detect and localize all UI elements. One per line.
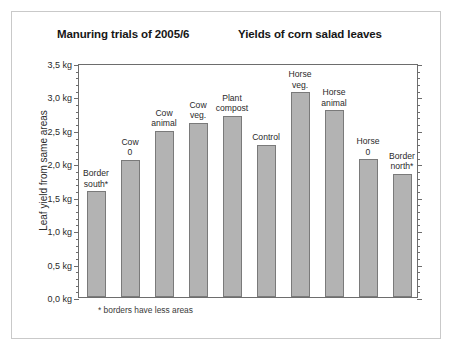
y-axis-minor-tick [76,239,79,240]
y-axis-minor-tick [417,152,420,153]
y-axis-minor-tick [417,85,420,86]
y-axis-major-tick [74,132,79,133]
y-axis-minor-tick [417,292,420,293]
y-axis-minor-tick [76,92,79,93]
chart-title-left: Manuring trials of 2005/6 [57,28,189,40]
y-axis-major-tick [74,98,79,99]
y-axis-tick-label: 2,5 kg [47,127,72,137]
bar [121,160,140,297]
y-axis-minor-tick [417,279,420,280]
plot-area: Border south*Cow 0Cow animalCow veg.Plan… [78,64,418,298]
bar-label: Control [238,132,294,143]
y-axis-major-tick [74,266,79,267]
y-axis-minor-tick [76,225,79,226]
y-axis-major-tick [74,199,79,200]
y-axis-major-tick [417,165,422,166]
y-axis-major-tick [417,232,422,233]
y-axis-tick-label: 2,0 kg [47,160,72,170]
y-axis-major-tick [417,266,422,267]
y-axis-minor-tick [76,286,79,287]
bar [189,123,208,297]
bar-label: Plant compost [204,93,260,114]
y-axis-minor-tick [76,212,79,213]
y-axis-minor-tick [76,112,79,113]
y-axis-minor-tick [76,159,79,160]
y-axis-major-tick [417,98,422,99]
y-axis-minor-tick [417,72,420,73]
chart-page: Manuring trials of 2005/6 Yields of corn… [0,0,452,350]
y-axis-major-tick [417,132,422,133]
y-axis-minor-tick [417,219,420,220]
y-axis-major-tick [74,299,79,300]
y-axis-minor-tick [417,225,420,226]
y-axis-tick-label: 0,0 kg [47,294,72,304]
bar-label: Cow 0 [102,137,158,158]
y-axis-tick-label: 1,0 kg [47,227,72,237]
y-axis-major-tick [417,65,422,66]
y-axis-minor-tick [76,85,79,86]
y-axis-minor-tick [417,139,420,140]
chart-title-right: Yields of corn salad leaves [238,28,382,40]
y-axis-minor-tick [417,112,420,113]
y-axis-tick-label: 3,5 kg [47,60,72,70]
y-axis-minor-tick [76,185,79,186]
y-axis-minor-tick [417,239,420,240]
y-axis-minor-tick [417,105,420,106]
y-axis-minor-tick [76,179,79,180]
chart-titles: Manuring trials of 2005/6 Yields of corn… [0,28,452,48]
bar [393,174,412,297]
y-axis-minor-tick [417,125,420,126]
y-axis-minor-tick [76,279,79,280]
y-axis-minor-tick [76,145,79,146]
y-axis-major-tick [417,199,422,200]
y-axis-minor-tick [76,259,79,260]
y-axis-minor-tick [76,152,79,153]
y-axis-major-tick [74,165,79,166]
y-axis-tick-label: 1,5 kg [47,194,72,204]
y-axis-major-tick [74,65,79,66]
y-axis-minor-tick [417,246,420,247]
y-axis-tick-label: 3,0 kg [47,93,72,103]
y-axis-major-tick [74,232,79,233]
y-axis-minor-tick [417,205,420,206]
y-axis-minor-tick [76,125,79,126]
y-axis-minor-tick [417,92,420,93]
y-axis-minor-tick [417,252,420,253]
bar [257,145,276,297]
y-axis-minor-tick [417,159,420,160]
y-axis-title: Leaf yield from same areas [38,56,49,286]
y-axis-minor-tick [76,205,79,206]
y-axis-minor-tick [76,172,79,173]
y-axis-tick-label: 0,5 kg [47,261,72,271]
y-axis-minor-tick [417,78,420,79]
y-axis-minor-tick [76,118,79,119]
bar [87,191,106,297]
y-axis-minor-tick [417,185,420,186]
y-axis-minor-tick [417,212,420,213]
y-axis-minor-tick [417,172,420,173]
y-axis-minor-tick [417,118,420,119]
bar [291,92,310,297]
y-axis-minor-tick [76,139,79,140]
y-axis-minor-tick [76,252,79,253]
y-axis-minor-tick [76,105,79,106]
y-axis-minor-tick [76,72,79,73]
y-axis-minor-tick [76,272,79,273]
bar [155,131,174,297]
bar [223,116,242,297]
footnote: * borders have less areas [98,305,193,315]
y-axis-minor-tick [417,192,420,193]
y-axis-minor-tick [76,292,79,293]
y-axis-minor-tick [417,286,420,287]
y-axis-minor-tick [417,179,420,180]
y-axis-minor-tick [417,145,420,146]
y-axis-major-tick [417,299,422,300]
y-axis-minor-tick [417,259,420,260]
y-axis-minor-tick [76,219,79,220]
y-axis-minor-tick [417,272,420,273]
y-axis-minor-tick [76,78,79,79]
bar-label: Horse animal [306,87,362,108]
y-axis-minor-tick [76,246,79,247]
bar-series: Border south*Cow 0Cow animalCow veg.Plan… [79,65,417,297]
y-axis-minor-tick [76,192,79,193]
